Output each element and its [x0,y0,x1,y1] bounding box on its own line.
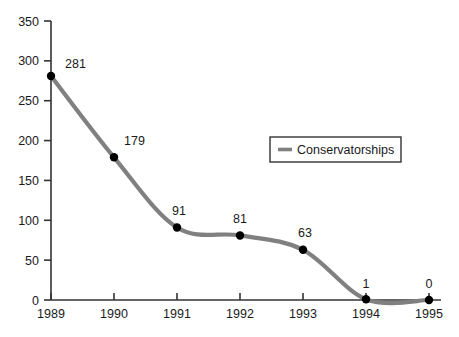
y-tick-label-250: 250 [18,94,39,108]
y-tick-label-150: 150 [18,174,39,188]
line-chart: 050100150200250300350 198919901991199219… [0,0,459,337]
x-tick-label-1989: 1989 [37,307,65,321]
data-label-1993: 63 [298,226,312,240]
y-tick-label-300: 300 [18,54,39,68]
y-tick-label-200: 200 [18,134,39,148]
data-label-1990: 179 [124,134,145,148]
x-tick-label-1990: 1990 [100,307,128,321]
legend-label-conservatorships: Conservatorships [297,143,394,157]
data-point-1992 [236,231,244,239]
data-label-1989: 281 [65,57,86,71]
x-tick-label-1991: 1991 [163,307,191,321]
data-point-1995 [425,296,433,304]
data-point-1993 [299,246,307,254]
data-label-1994: 1 [363,277,370,291]
data-label-1995: 0 [426,277,433,291]
data-point-1989 [47,72,55,80]
chart-canvas: 050100150200250300350 198919901991199219… [0,0,459,337]
data-point-1994 [362,295,370,303]
data-point-1991 [173,223,181,231]
x-tick-label-1993: 1993 [289,307,317,321]
legend: Conservatorships [270,137,401,162]
data-label-1991: 91 [172,204,186,218]
data-point-1990 [110,153,118,161]
y-tick-label-100: 100 [18,214,39,228]
y-tick-label-0: 0 [32,294,39,308]
chart-background [0,0,459,337]
y-tick-label-50: 50 [25,254,39,268]
data-label-1992: 81 [233,212,247,226]
x-tick-label-1995: 1995 [415,307,443,321]
y-tick-label-350: 350 [18,15,39,29]
x-tick-label-1992: 1992 [226,307,254,321]
x-tick-label-1994: 1994 [352,307,380,321]
